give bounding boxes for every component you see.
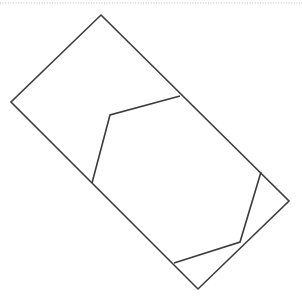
inner-upper-left-polyline <box>92 96 180 183</box>
inner-lower-right-polyline <box>174 172 261 263</box>
figure-canvas <box>0 0 302 297</box>
outer-rotated-rectangle <box>11 15 289 289</box>
figure-svg <box>0 0 302 297</box>
